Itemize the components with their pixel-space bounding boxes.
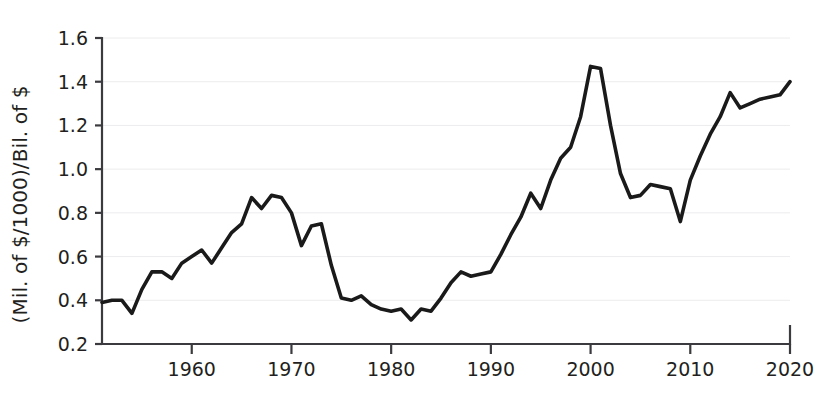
y-tick-label: 1.2 bbox=[58, 114, 88, 136]
y-tick-label: 0.8 bbox=[58, 202, 88, 224]
data-series-line bbox=[102, 66, 790, 320]
line-chart: 0.20.40.60.81.01.21.41.6 196019701980199… bbox=[0, 0, 839, 409]
y-tick-label: 1.6 bbox=[58, 27, 88, 49]
y-tick-label: 0.2 bbox=[58, 333, 88, 355]
y-tick-label: 0.4 bbox=[58, 289, 88, 311]
y-tick-label: 1.0 bbox=[58, 158, 88, 180]
chart-container: (Mil. of $/1000)/Bil. of $ 0.20.40.60.81… bbox=[0, 0, 839, 409]
x-tick-label: 1980 bbox=[367, 358, 415, 380]
x-tick-labels-group: 1960197019801990200020102020 bbox=[168, 358, 815, 380]
x-tick-label: 1960 bbox=[168, 358, 216, 380]
x-tick-marks-group bbox=[192, 344, 790, 354]
x-tick-label: 2000 bbox=[566, 358, 614, 380]
y-tick-labels-group: 0.20.40.60.81.01.21.41.6 bbox=[58, 27, 88, 355]
x-tick-label: 2010 bbox=[666, 358, 714, 380]
y-tick-label: 0.6 bbox=[58, 246, 88, 268]
gridlines-group bbox=[102, 38, 790, 300]
y-tick-label: 1.4 bbox=[58, 71, 88, 93]
x-tick-label: 1970 bbox=[267, 358, 315, 380]
x-tick-label: 2020 bbox=[766, 358, 814, 380]
x-tick-label: 1990 bbox=[467, 358, 515, 380]
